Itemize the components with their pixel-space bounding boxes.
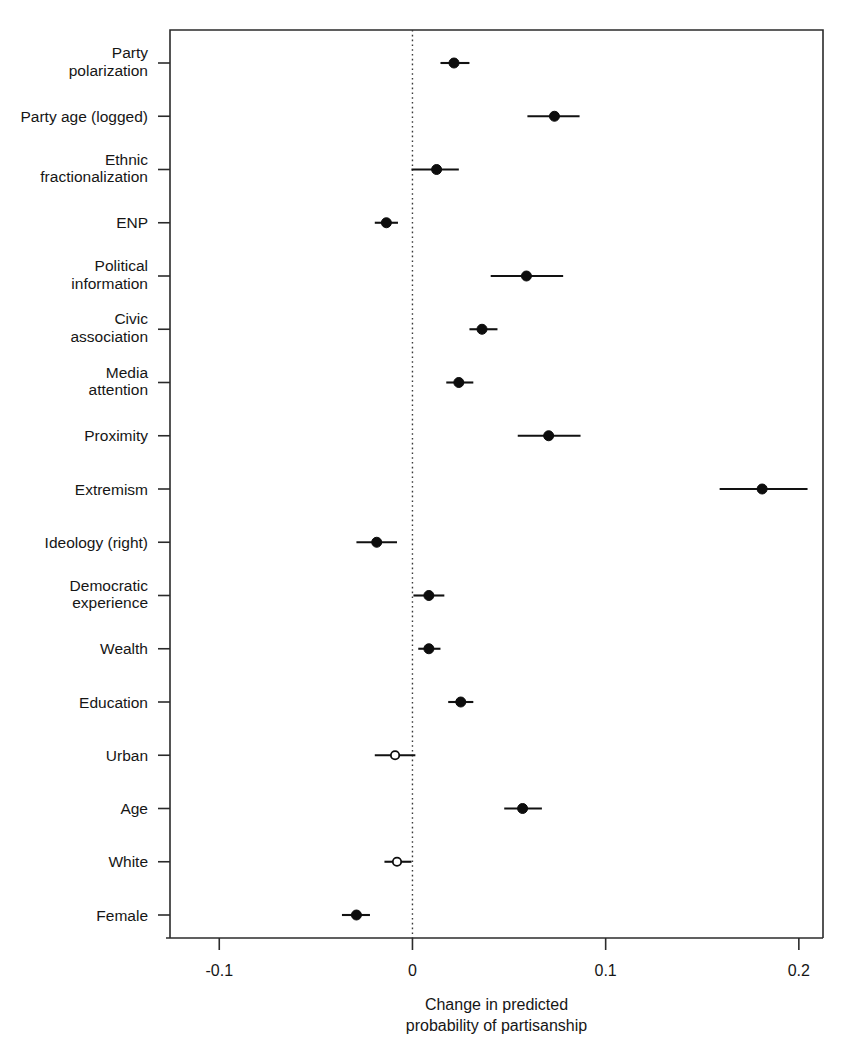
y-axis-category-label: Extremism — [75, 481, 148, 498]
x-tick-label: 0.2 — [788, 962, 810, 979]
point-marker-filled — [351, 910, 361, 920]
point-marker-filled — [449, 58, 459, 68]
y-axis-category-label: Ideology (right) — [45, 534, 148, 551]
point-marker-filled — [424, 644, 434, 654]
point-marker-open — [391, 751, 399, 759]
x-tick-label: 0.1 — [595, 962, 617, 979]
point-marker-filled — [454, 378, 464, 388]
x-tick-label: -0.1 — [205, 962, 233, 979]
point-marker-filled — [757, 484, 767, 494]
y-axis-category-label: Education — [79, 694, 148, 711]
y-axis-category-label: Urban — [106, 747, 148, 764]
point-marker-filled — [544, 431, 554, 441]
y-axis-category-label: White — [108, 853, 148, 870]
coefficient-plot-figure: PartypolarizationParty age (logged)Ethni… — [0, 0, 849, 1047]
y-axis-category-label: Female — [96, 907, 148, 924]
point-marker-filled — [381, 218, 391, 228]
y-axis-category-label: Wealth — [100, 640, 148, 657]
y-axis-category-label: Democraticexperience — [70, 577, 149, 612]
y-axis-category-label: Age — [120, 800, 148, 817]
point-marker-filled — [518, 804, 528, 814]
point-marker-open — [393, 858, 401, 866]
y-axis-category-label: Proximity — [84, 427, 148, 444]
point-marker-filled — [424, 591, 434, 601]
point-marker-filled — [549, 111, 559, 121]
point-marker-filled — [432, 165, 442, 175]
y-axis-category-label: Party age (logged) — [20, 108, 148, 125]
y-axis-category-label: ENP — [116, 214, 148, 231]
x-tick-label: 0 — [408, 962, 417, 979]
point-marker-filled — [372, 537, 382, 547]
point-marker-filled — [521, 271, 531, 281]
point-marker-filled — [456, 697, 466, 707]
point-marker-filled — [477, 324, 487, 334]
coefficient-plot-svg: PartypolarizationParty age (logged)Ethni… — [0, 0, 849, 1047]
